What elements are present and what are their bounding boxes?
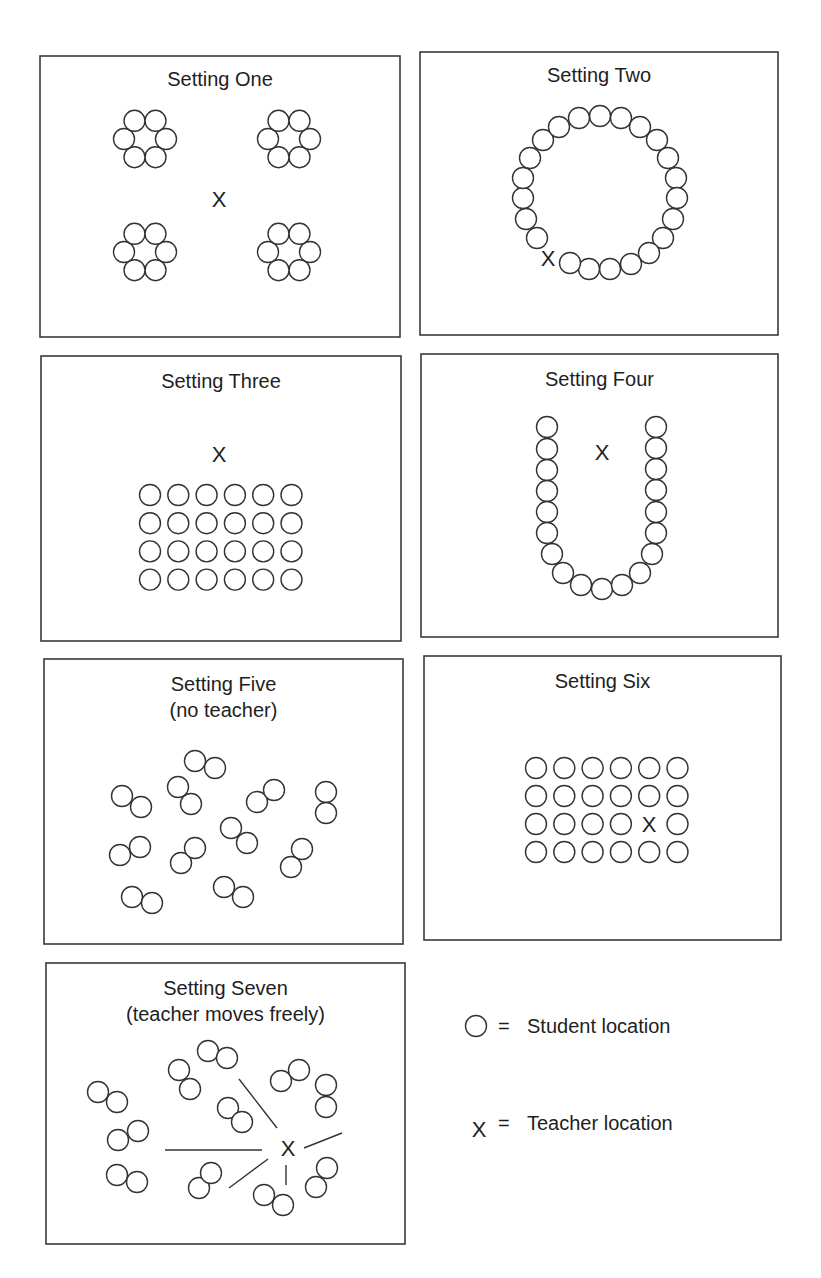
student-location: [667, 842, 688, 863]
student-location: [169, 1060, 190, 1081]
student-location: [224, 569, 245, 590]
student-location: [600, 259, 621, 280]
student-location: [224, 485, 245, 506]
teacher-location: X: [642, 812, 657, 837]
student-location: [268, 147, 289, 168]
student-location: [639, 786, 660, 807]
student-location: [124, 260, 145, 281]
student-location: [142, 893, 163, 914]
student-location: [107, 1165, 128, 1186]
student-location: [289, 147, 310, 168]
student-location: [198, 1041, 219, 1062]
student-location: [526, 814, 547, 835]
student-location: [122, 887, 143, 908]
panel-setting-six: Setting SixX: [424, 656, 781, 940]
student-location: [513, 188, 534, 209]
student-location: [114, 242, 135, 263]
student-location: [582, 758, 603, 779]
movement-line: [304, 1133, 342, 1148]
student-cluster: [114, 223, 177, 280]
panel-title: Setting Two: [547, 64, 651, 86]
student-location: [646, 523, 667, 544]
student-location: [646, 480, 667, 501]
student-location: [582, 786, 603, 807]
student-location: [253, 513, 274, 534]
student-location: [630, 563, 651, 584]
student-location: [667, 758, 688, 779]
student-location: [513, 168, 534, 189]
teacher-location: X: [541, 246, 556, 271]
student-location: [88, 1082, 109, 1103]
student-location: [253, 569, 274, 590]
student-location: [610, 758, 631, 779]
student-location: [281, 541, 302, 562]
panel-setting-three: Setting ThreeX: [41, 356, 401, 641]
legend-item-student: = Student location: [466, 1015, 671, 1037]
student-location: [579, 259, 600, 280]
student-location: [554, 786, 575, 807]
student-location: [292, 839, 313, 860]
student-location: [306, 1177, 327, 1198]
student-location: [554, 842, 575, 863]
teacher-location: X: [281, 1136, 296, 1161]
student-location: [646, 459, 667, 480]
student-location: [196, 485, 217, 506]
legend-item-teacher: X = Teacher location: [472, 1112, 673, 1142]
student-location: [156, 242, 177, 263]
student-location: [224, 513, 245, 534]
student-location: [667, 188, 688, 209]
student-location: [300, 242, 321, 263]
student-location: [592, 579, 613, 600]
student-location: [140, 485, 161, 506]
student-location: [145, 223, 166, 244]
student-location: [124, 147, 145, 168]
student-location: [554, 758, 575, 779]
student-location: [224, 541, 245, 562]
teacher-x-icon: X: [472, 1117, 487, 1142]
panel-title: Setting Three: [161, 370, 281, 392]
student-location: [205, 758, 226, 779]
panel-setting-seven: Setting Seven(teacher moves freely)X: [46, 963, 405, 1244]
student-location: [667, 786, 688, 807]
student-location: [316, 803, 337, 824]
student-location: [610, 842, 631, 863]
panel-setting-five: Setting Five(no teacher): [44, 659, 403, 944]
student-location: [646, 417, 667, 438]
student-location: [537, 460, 558, 481]
student-location: [317, 1158, 338, 1179]
student-location: [264, 780, 285, 801]
student-location: [253, 485, 274, 506]
student-location: [268, 223, 289, 244]
student-location: [131, 797, 152, 818]
student-location: [542, 544, 563, 565]
panel-subtitle: (no teacher): [170, 699, 278, 721]
movement-line: [229, 1159, 268, 1188]
student-location: [639, 243, 660, 264]
student-location: [639, 842, 660, 863]
panel-frame: [420, 52, 778, 335]
teacher-location: X: [212, 442, 227, 467]
legend-label-student: Student location: [527, 1015, 670, 1037]
student-location: [560, 253, 581, 274]
panel-setting-one: Setting OneX: [40, 56, 400, 337]
student-location: [217, 1048, 238, 1069]
student-location: [196, 513, 217, 534]
student-location: [611, 108, 632, 129]
student-location: [196, 541, 217, 562]
student-location: [140, 513, 161, 534]
student-location: [233, 887, 254, 908]
student-location: [526, 842, 547, 863]
student-location: [180, 1079, 201, 1100]
student-location: [271, 1071, 292, 1092]
student-location: [127, 1172, 148, 1193]
student-location: [553, 563, 574, 584]
student-location: [232, 1112, 253, 1133]
student-location: [646, 502, 667, 523]
student-location: [526, 758, 547, 779]
student-location: [289, 260, 310, 281]
student-location: [253, 541, 274, 562]
student-location: [168, 541, 189, 562]
student-location: [114, 129, 135, 150]
student-location: [181, 794, 202, 815]
student-location: [145, 147, 166, 168]
